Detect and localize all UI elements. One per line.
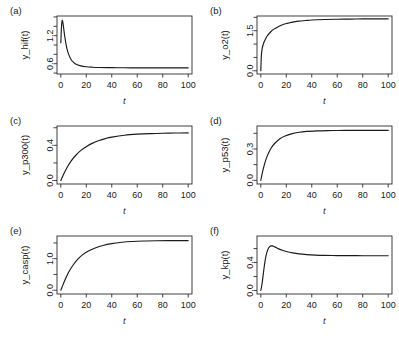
x-tick-label: 0 bbox=[58, 190, 63, 200]
x-tick-label: 20 bbox=[81, 300, 91, 310]
x-tick-label: 40 bbox=[307, 300, 317, 310]
panel-a: (a)0204060801000.61.2y_hif(t)t bbox=[0, 2, 199, 114]
x-axis-label: t bbox=[123, 95, 126, 106]
data-curve bbox=[61, 133, 188, 181]
x-tick-label: 100 bbox=[381, 80, 396, 90]
x-tick-label: 20 bbox=[281, 190, 291, 200]
x-tick-label: 60 bbox=[332, 300, 342, 310]
x-axis-label: t bbox=[123, 205, 126, 216]
x-tick-label: 60 bbox=[132, 80, 142, 90]
y-tick-label: 0.0 bbox=[46, 284, 56, 297]
x-tick-label: 0 bbox=[58, 80, 63, 90]
x-tick-label: 100 bbox=[381, 300, 396, 310]
x-tick-label: 40 bbox=[107, 80, 117, 90]
panel-d: (d)0204060801000.00.3y_p53(t)t bbox=[200, 112, 399, 224]
panel-label: (d) bbox=[210, 115, 222, 126]
x-axis-label: t bbox=[323, 95, 326, 106]
y-tick-label: 0.4 bbox=[46, 139, 56, 152]
panel-label: (b) bbox=[210, 5, 222, 16]
y-tick-label: 0.6 bbox=[46, 57, 56, 70]
plot-frame bbox=[257, 236, 392, 294]
y-tick-label: 1.5 bbox=[246, 24, 256, 37]
data-curve bbox=[261, 130, 388, 180]
panel-c: (c)0204060801000.00.4y_p300(t)t bbox=[0, 112, 199, 224]
y-axis-label: y_p53(t) bbox=[219, 138, 230, 173]
x-tick-label: 0 bbox=[258, 80, 263, 90]
y-axis-label: y_o2(t) bbox=[219, 30, 230, 60]
x-tick-label: 80 bbox=[358, 80, 368, 90]
panel-b: (b)0204060801000.01.5y_o2(t)t bbox=[200, 2, 399, 114]
x-tick-label: 80 bbox=[158, 300, 168, 310]
x-tick-label: 60 bbox=[332, 190, 342, 200]
x-tick-label: 0 bbox=[58, 300, 63, 310]
y-tick-label: 0.0 bbox=[46, 174, 56, 187]
y-axis-label: y_casp(t) bbox=[19, 245, 30, 284]
x-tick-label: 80 bbox=[358, 300, 368, 310]
x-axis-label: t bbox=[323, 205, 326, 216]
x-tick-label: 40 bbox=[307, 80, 317, 90]
x-tick-label: 100 bbox=[181, 300, 196, 310]
x-tick-label: 80 bbox=[158, 190, 168, 200]
data-curve bbox=[261, 246, 388, 291]
x-tick-label: 20 bbox=[281, 300, 291, 310]
panel-label: (e) bbox=[10, 225, 22, 236]
panel-label: (f) bbox=[210, 225, 219, 236]
x-tick-label: 100 bbox=[381, 190, 396, 200]
y-tick-label: 0.3 bbox=[246, 143, 256, 156]
x-tick-label: 60 bbox=[332, 80, 342, 90]
panel-e: (e)0204060801000.01.0y_casp(t)t bbox=[0, 222, 199, 334]
x-tick-label: 40 bbox=[107, 190, 117, 200]
x-tick-label: 80 bbox=[358, 190, 368, 200]
x-tick-label: 20 bbox=[81, 80, 91, 90]
panel-label: (a) bbox=[10, 5, 22, 16]
y-tick-label: 0.4 bbox=[246, 256, 256, 269]
y-tick-label: 0.0 bbox=[246, 174, 256, 187]
y-tick-label: 1.2 bbox=[46, 29, 56, 42]
y-tick-label: 0.0 bbox=[246, 65, 256, 78]
y-tick-label: 1.0 bbox=[46, 252, 56, 265]
y-axis-label: y_p300(t) bbox=[19, 135, 30, 175]
x-tick-label: 20 bbox=[81, 190, 91, 200]
x-tick-label: 0 bbox=[258, 300, 263, 310]
figure-canvas: (a)0204060801000.61.2y_hif(t)t(b)0204060… bbox=[0, 0, 399, 338]
x-tick-label: 0 bbox=[258, 190, 263, 200]
x-axis-label: t bbox=[123, 315, 126, 326]
y-axis-label: y_kp(t) bbox=[219, 250, 230, 279]
x-tick-label: 40 bbox=[307, 190, 317, 200]
plot-frame bbox=[257, 16, 392, 74]
panel-label: (c) bbox=[10, 115, 21, 126]
x-tick-label: 60 bbox=[132, 300, 142, 310]
x-tick-label: 20 bbox=[281, 80, 291, 90]
x-tick-label: 100 bbox=[181, 80, 196, 90]
data-curve bbox=[261, 19, 388, 71]
y-axis-label: y_hif(t) bbox=[19, 30, 30, 59]
y-tick-label: 0.0 bbox=[246, 284, 256, 297]
data-curve bbox=[61, 241, 188, 291]
x-tick-label: 40 bbox=[107, 300, 117, 310]
plot-frame bbox=[57, 236, 192, 294]
panel-f: (f)0204060801000.00.4y_kp(t)t bbox=[200, 222, 399, 334]
x-tick-label: 80 bbox=[158, 80, 168, 90]
plot-frame bbox=[257, 126, 392, 184]
data-curve bbox=[61, 20, 188, 68]
x-axis-label: t bbox=[323, 315, 326, 326]
x-tick-label: 60 bbox=[132, 190, 142, 200]
x-tick-label: 100 bbox=[181, 190, 196, 200]
